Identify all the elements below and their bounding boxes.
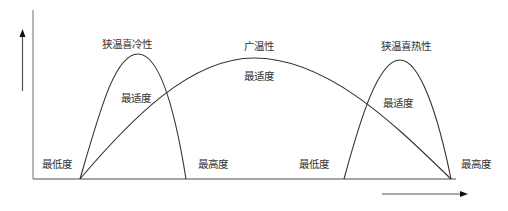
- cold-max-label: 最高度: [198, 158, 228, 170]
- cold-curve-title: 狭温喜冷性: [102, 38, 152, 50]
- warm-max-label: 最高度: [461, 158, 491, 170]
- warm-stenothermal-curve: [344, 60, 451, 179]
- warm-min-label: 最低度: [299, 158, 329, 170]
- cold-min-label: 最低度: [42, 158, 72, 170]
- wide-optimum-label: 最适度: [244, 70, 274, 82]
- diagram-canvas: [0, 0, 508, 211]
- cold-optimum-label: 最适度: [121, 92, 151, 104]
- arrow-up-icon: [20, 29, 26, 91]
- warm-curve-title: 狭温喜热性: [381, 40, 431, 52]
- warm-optimum-label: 最适度: [383, 97, 413, 109]
- arrow-right-icon: [382, 191, 468, 197]
- wide-curve-title: 广温性: [244, 40, 274, 52]
